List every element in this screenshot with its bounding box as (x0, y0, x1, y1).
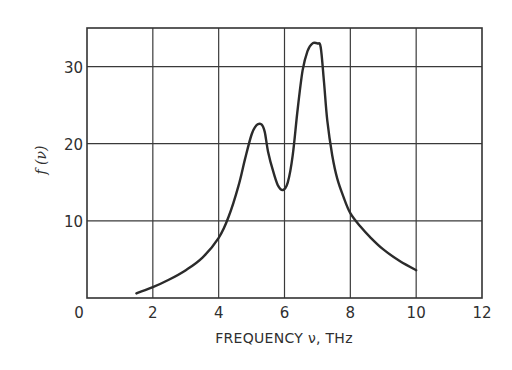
y-axis-tick-labels: 102030 (64, 59, 83, 231)
x-tick-label: 0 (74, 304, 84, 322)
x-axis-label: FREQUENCY ν, THz (215, 330, 353, 346)
spectrum-curve (136, 43, 416, 294)
x-tick-label: 8 (346, 304, 356, 322)
y-tick-label: 20 (64, 136, 83, 154)
x-tick-label: 10 (407, 304, 426, 322)
y-tick-label: 30 (64, 59, 83, 77)
y-tick-label: 10 (64, 213, 83, 231)
x-tick-label: 4 (214, 304, 224, 322)
x-axis-tick-labels: 024681012 (74, 304, 491, 322)
x-tick-label: 12 (472, 304, 491, 322)
grid-lines (87, 28, 482, 298)
y-axis-label: f (ν) (33, 145, 49, 175)
x-tick-label: 6 (280, 304, 290, 322)
x-tick-label: 2 (148, 304, 158, 322)
frequency-spectrum-chart: 024681012 102030 FREQUENCY ν, THz f (ν) (0, 0, 512, 370)
